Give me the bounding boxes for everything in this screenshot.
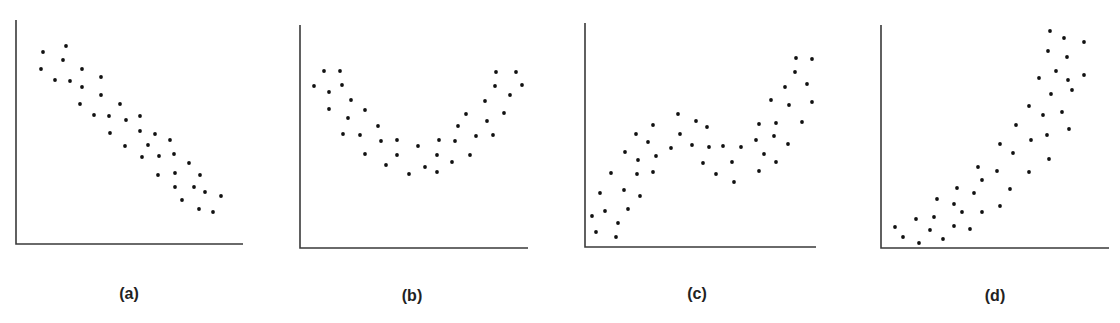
data-point — [346, 116, 350, 120]
data-point — [786, 142, 790, 146]
data-point — [805, 82, 809, 86]
data-point — [407, 172, 411, 176]
data-point — [774, 121, 778, 125]
data-point — [783, 85, 787, 89]
data-point — [635, 172, 639, 176]
data-point — [928, 228, 932, 232]
data-point — [980, 210, 984, 214]
data-point — [594, 230, 598, 234]
axes — [881, 25, 1109, 248]
data-point — [198, 173, 202, 177]
data-point — [78, 102, 82, 106]
data-point — [941, 237, 945, 241]
data-point — [61, 58, 65, 62]
data-point — [203, 190, 207, 194]
data-point — [614, 235, 618, 239]
data-point — [172, 152, 176, 156]
data-point — [1065, 55, 1069, 59]
data-point — [810, 100, 814, 104]
data-point — [416, 144, 420, 148]
panel-label-b: (b) — [402, 287, 422, 305]
data-point — [1082, 40, 1086, 44]
data-point — [327, 107, 331, 111]
data-point — [935, 197, 939, 201]
data-point — [754, 138, 758, 142]
data-point — [146, 143, 150, 147]
data-point — [363, 108, 367, 112]
data-point — [998, 204, 1002, 208]
data-point — [156, 173, 160, 177]
panel-label-d: (d) — [985, 287, 1005, 305]
scatter-plot-c — [585, 23, 816, 247]
data-point — [616, 221, 620, 225]
data-point — [107, 114, 111, 118]
data-point — [1070, 88, 1074, 92]
data-point — [654, 154, 658, 158]
data-point — [341, 132, 345, 136]
data-point — [327, 90, 331, 94]
data-point — [772, 134, 776, 138]
axes — [585, 23, 816, 247]
data-point — [980, 178, 984, 182]
data-point — [762, 152, 766, 156]
panel-label-a: (a) — [119, 285, 139, 303]
data-point — [757, 122, 761, 126]
data-point — [955, 186, 959, 190]
data-point — [952, 224, 956, 228]
data-point — [219, 194, 223, 198]
data-point — [322, 69, 326, 73]
data-point — [893, 225, 897, 229]
data-point — [453, 139, 457, 143]
data-point — [173, 185, 177, 189]
data-point — [634, 132, 638, 136]
data-point — [995, 169, 999, 173]
data-point — [197, 207, 201, 211]
data-point — [707, 145, 711, 149]
data-point — [456, 124, 460, 128]
data-point — [1082, 73, 1086, 77]
data-point — [810, 57, 814, 61]
data-point — [123, 144, 127, 148]
data-point — [694, 119, 698, 123]
data-point — [690, 143, 694, 147]
data-point — [379, 139, 383, 143]
data-point — [1046, 49, 1050, 53]
data-point — [92, 113, 96, 117]
data-point — [494, 70, 498, 74]
data-point — [609, 171, 613, 175]
data-point — [464, 112, 468, 116]
data-point — [914, 217, 918, 221]
data-point — [678, 132, 682, 136]
data-point — [99, 93, 103, 97]
data-point — [651, 170, 655, 174]
data-point — [1027, 104, 1031, 108]
data-point — [960, 210, 964, 214]
data-point — [39, 67, 43, 71]
data-point — [423, 165, 427, 169]
data-point — [395, 138, 399, 142]
data-point — [1029, 138, 1033, 142]
data-point — [622, 188, 626, 192]
data-point — [787, 103, 791, 107]
data-point — [64, 44, 68, 48]
data-point — [774, 160, 778, 164]
data-point — [1011, 151, 1015, 155]
data-point — [358, 133, 362, 137]
data-point — [968, 227, 972, 231]
data-point — [80, 67, 84, 71]
data-point — [340, 83, 344, 87]
data-point — [730, 160, 734, 164]
data-point — [646, 140, 650, 144]
data-point — [701, 161, 705, 165]
data-point — [187, 161, 191, 165]
data-point — [153, 132, 157, 136]
data-point — [363, 152, 367, 156]
data-point — [395, 153, 399, 157]
data-point — [349, 98, 353, 102]
data-point — [1045, 133, 1049, 137]
data-point — [508, 93, 512, 97]
data-point — [721, 144, 725, 148]
data-point — [1054, 69, 1058, 73]
data-point — [794, 56, 798, 60]
data-point — [474, 134, 478, 138]
